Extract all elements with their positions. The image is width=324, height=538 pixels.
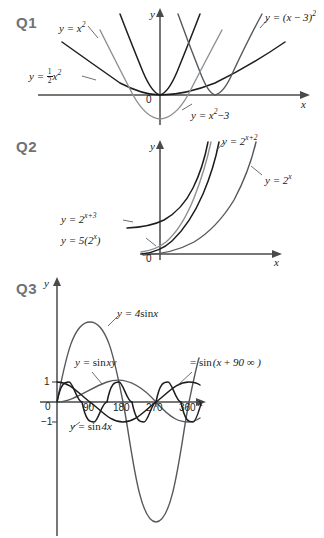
q2-graph <box>0 128 324 268</box>
q1-eqlabel-y-eq-x-squared-minus-3: y = x2−3 <box>191 107 229 121</box>
q2-curve-y-eq-5-times-2-pow-x <box>141 142 211 252</box>
q2-leader-5-times-2-pow-x <box>146 238 156 246</box>
q3-leader-sin-half-x <box>92 372 102 384</box>
q1-origin-label: 0 <box>146 94 152 105</box>
q3-x-axis-label: x <box>198 396 203 408</box>
q3-eqlabel-y-eq-4sinx: y = 4sinx <box>117 307 158 319</box>
q3-ylabel-1: 1 <box>44 376 50 387</box>
q1-eqlabel-y-eq-half-x-squared: y = 12x2 <box>29 68 61 84</box>
q2-leader-2-pow-x <box>251 166 262 175</box>
q3-xlabel-90: 90 <box>83 402 94 413</box>
q3-xlabel-360: 360 <box>179 402 196 413</box>
q2-eqlabel-y-eq-5-times-2-pow-x: y = 5(2x) <box>61 232 100 246</box>
q3-eqlabel-y-eq-sin-half-x: y = sin xy <box>75 356 116 368</box>
q3-xlabel-270: 270 <box>146 402 163 413</box>
q2-eqlabel-y-eq-2-pow-x-plus-3: y = 2x+3 <box>61 211 96 225</box>
panel-q3: Q3 <box>0 268 324 538</box>
q3-eqlabel-y-eq-sin4x: y = sin 4x <box>70 420 112 432</box>
q1-curve-y-eq-x-squared-minus-3 <box>100 30 222 119</box>
q1-leader-half-x-squared <box>82 76 96 80</box>
q2-origin-label: 0 <box>146 253 152 264</box>
q3-eqlabel-y-eq-sin-x-plus-90: = sin (x + 90 ∞ ) <box>190 356 261 368</box>
q3-y-arrowhead <box>53 277 61 286</box>
q1-eqlabel-y-eq-x-minus-3-squared: y = (x − 3)2 <box>265 9 316 23</box>
q2-y-arrowhead <box>156 140 164 149</box>
panel-q2: Q2 y = 2x+3 y = 5(2x) y = 2x+2 y = <box>0 128 324 268</box>
q2-eqlabel-y-eq-2-pow-x-plus-2: y = 2x+2 <box>222 133 257 147</box>
q3-ylabel-minus-1: −1 <box>41 416 52 427</box>
q3-y-axis-label: y <box>44 277 49 289</box>
q2-leader-2-pow-x-plus-3 <box>123 220 133 222</box>
q2-x-axis-label: x <box>274 256 279 268</box>
q1-x-axis-label: x <box>301 98 306 110</box>
q2-eqlabel-y-eq-2-pow-x: y = 2x <box>265 172 292 186</box>
q1-curve-y-eq-x-minus-3-squared <box>178 14 262 95</box>
q1-y-axis-label: y <box>150 8 155 20</box>
q3-xlabel-0: 0 <box>45 401 51 412</box>
q1-eqlabel-y-eq-x-squared: y = x2 <box>59 20 85 34</box>
q1-leader-x-squared <box>88 26 98 38</box>
q1-y-arrowhead <box>156 8 164 17</box>
q2-y-axis-label: y <box>150 140 155 152</box>
panel-q1: Q1 y = x2 y = 12x2 y = (x − 3)2 y <box>0 0 324 128</box>
figure-page: Q1 y = x2 y = 12x2 y = (x − 3)2 y <box>0 0 324 538</box>
q1-curve-y-eq-half-x-squared <box>62 42 285 95</box>
q3-xlabel-180: 180 <box>113 402 130 413</box>
q2-curve-y-eq-2-pow-x-plus-3 <box>127 142 208 228</box>
